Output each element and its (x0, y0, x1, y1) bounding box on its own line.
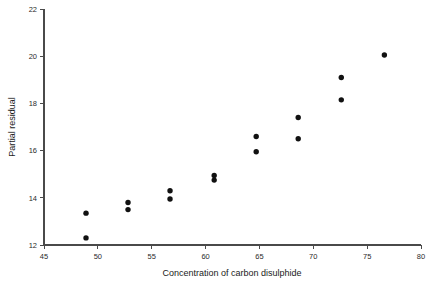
x-tick-label: 50 (94, 252, 102, 261)
y-tick-label: 22 (29, 5, 37, 14)
x-tick-label: 80 (417, 252, 425, 261)
data-point (339, 97, 344, 102)
data-point (339, 75, 344, 80)
y-tick-label: 20 (29, 52, 37, 61)
data-point (167, 196, 172, 201)
data-point (211, 173, 216, 178)
data-point (382, 52, 387, 57)
y-axis-ticks: 121416182022 (29, 5, 44, 250)
data-point (296, 136, 301, 141)
x-tick-label: 70 (309, 252, 317, 261)
data-points-layer (83, 52, 387, 240)
scatter-plot-figure: 4550556065707580 121416182022 Concentrat… (0, 0, 438, 286)
data-point (125, 200, 130, 205)
data-point (253, 149, 258, 154)
data-point (253, 134, 258, 139)
data-point (167, 188, 172, 193)
x-axis-ticks: 4550556065707580 (40, 245, 425, 261)
data-point (296, 115, 301, 120)
x-axis-title: Concentration of carbon disulphide (162, 268, 301, 278)
x-tick-label: 60 (201, 252, 209, 261)
data-point (83, 210, 88, 215)
y-tick-label: 14 (29, 194, 37, 203)
data-point (83, 235, 88, 240)
x-tick-label: 45 (40, 252, 48, 261)
data-point (211, 177, 216, 182)
plot-canvas: 4550556065707580 121416182022 Concentrat… (0, 0, 438, 286)
x-tick-label: 55 (148, 252, 156, 261)
x-tick-label: 75 (363, 252, 371, 261)
y-tick-label: 16 (29, 146, 37, 155)
axes-group (44, 9, 421, 245)
data-point (125, 207, 130, 212)
y-tick-label: 12 (29, 241, 37, 250)
x-tick-label: 65 (255, 252, 263, 261)
y-tick-label: 18 (29, 99, 37, 108)
y-axis-title: Partial residual (7, 97, 17, 157)
